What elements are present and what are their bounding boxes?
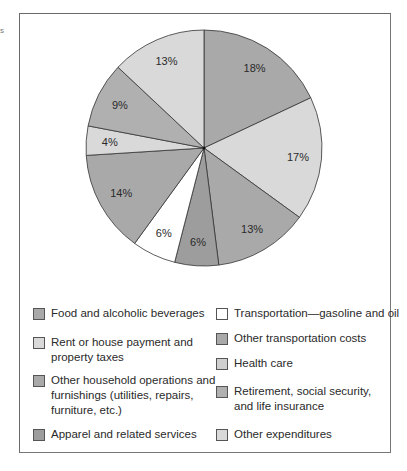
slice-percent-label: 6% <box>190 236 206 248</box>
legend-right-item-2: Health care <box>216 356 293 371</box>
legend-swatch <box>216 333 228 345</box>
legend-label: Retirement, social security, and life in… <box>234 384 371 414</box>
legend-right-item-4: Other expenditures <box>216 427 332 442</box>
slice-percent-label: 17% <box>287 151 309 163</box>
legend-label: Other household operations and furnishin… <box>51 373 215 418</box>
pie-chart: 18%17%13%6%6%14%4%9%13% <box>0 0 407 300</box>
legend-left-item-3: Apparel and related services <box>33 427 197 442</box>
legend-label: Food and alcoholic beverages <box>51 306 204 321</box>
slice-percent-label: 18% <box>244 62 266 74</box>
legend-swatch <box>33 429 45 441</box>
legend-label: Rent or house payment and property taxes <box>51 335 193 365</box>
legend-label: Health care <box>234 356 293 371</box>
legend-label: Apparel and related services <box>51 427 197 442</box>
legend-swatch <box>216 358 228 370</box>
slice-percent-label: 13% <box>241 223 263 235</box>
legend-swatch <box>33 337 45 349</box>
slice-percent-label: 13% <box>155 55 177 67</box>
slice-percent-label: 14% <box>110 187 132 199</box>
legend-right-item-3: Retirement, social security, and life in… <box>216 384 371 414</box>
slice-percent-label: 4% <box>102 136 118 148</box>
legend-right-item-1: Other transportation costs <box>216 331 366 346</box>
legend-swatch <box>33 308 45 320</box>
slice-percent-label: 6% <box>156 227 172 239</box>
legend-left-item-2: Other household operations and furnishin… <box>33 373 215 418</box>
legend-label: Transportation—gasoline and oil <box>234 306 399 321</box>
pie-center-dot <box>203 147 206 150</box>
legend-left-item-0: Food and alcoholic beverages <box>33 306 204 321</box>
legend-swatch <box>33 375 45 387</box>
legend-swatch <box>216 308 228 320</box>
legend-right-item-0: Transportation—gasoline and oil <box>216 306 399 321</box>
legend-left-item-1: Rent or house payment and property taxes <box>33 335 193 365</box>
legend-label: Other expenditures <box>234 427 332 442</box>
legend-swatch <box>216 386 228 398</box>
legend-swatch <box>216 429 228 441</box>
legend-label: Other transportation costs <box>234 331 366 346</box>
slice-percent-label: 9% <box>112 99 128 111</box>
